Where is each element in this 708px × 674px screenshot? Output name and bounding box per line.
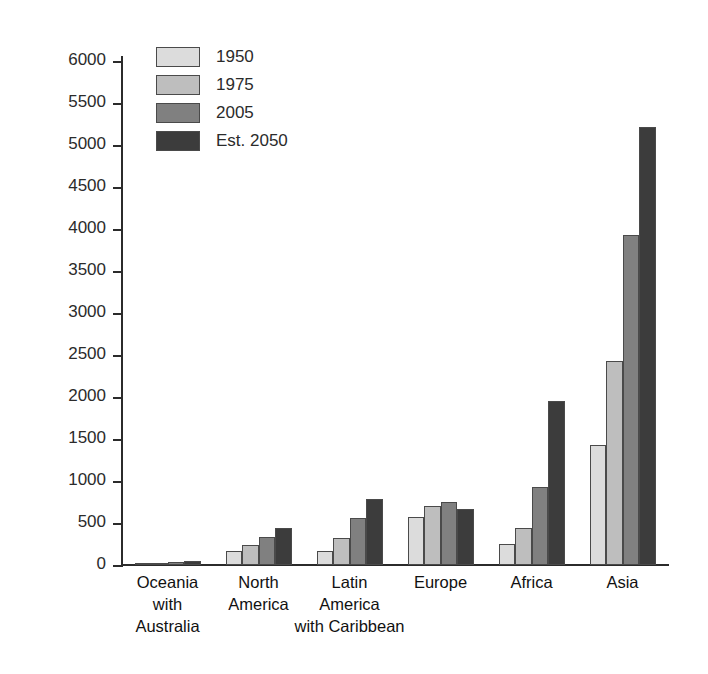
y-axis-tick: 3000 (113, 313, 122, 315)
y-axis-tick: 6000 (113, 61, 122, 63)
bar (151, 563, 168, 565)
bar (317, 551, 334, 565)
bar (242, 545, 259, 565)
legend-label: 1975 (216, 75, 254, 95)
y-axis-tick-label: 3000 (68, 302, 106, 322)
y-axis-tick: 5500 (113, 103, 122, 105)
y-axis-tick-label: 1000 (68, 470, 106, 490)
bar-group (395, 61, 486, 565)
chart-legend: 195019752005Est. 2050 (156, 44, 356, 156)
bar (350, 518, 367, 565)
bar (366, 499, 383, 565)
y-axis-tick: 2500 (113, 355, 122, 357)
legend-swatch (156, 75, 200, 95)
legend-label: Est. 2050 (216, 131, 288, 151)
y-axis-tick-label: 6000 (68, 50, 106, 70)
y-axis-tick: 5000 (113, 145, 122, 147)
y-axis-tick-label: 2000 (68, 386, 106, 406)
bar (548, 401, 565, 565)
x-axis-category-label-line: Asia (557, 571, 688, 593)
y-axis-tick: 3500 (113, 271, 122, 273)
legend-item: 1950 (156, 44, 356, 69)
bar (259, 537, 276, 565)
bar (639, 127, 656, 565)
x-axis-category-label-line: Australia (102, 615, 233, 637)
x-axis-category-label-line: with Caribbean (284, 615, 415, 637)
bar (590, 445, 607, 565)
y-axis-title: Population (millions) (0, 0, 34, 674)
legend-swatch (156, 131, 200, 151)
legend-label: 1950 (216, 47, 254, 67)
bar-group (577, 61, 668, 565)
y-axis-tick: 1000 (113, 481, 122, 483)
bar (275, 528, 292, 565)
y-axis-tick: 2000 (113, 397, 122, 399)
x-axis-category-label-line: America (284, 593, 415, 615)
y-axis-tick-label: 5500 (68, 92, 106, 112)
bar (532, 487, 549, 565)
bar (424, 506, 441, 565)
y-axis-tick-label: 3500 (68, 260, 106, 280)
legend-swatch (156, 103, 200, 123)
x-axis-category-label: Asia (557, 571, 688, 593)
y-axis-tick-label: 500 (78, 512, 106, 532)
y-axis-tick: 4000 (113, 229, 122, 231)
bar (184, 561, 201, 565)
y-axis-tick-label: 2500 (68, 344, 106, 364)
bar (333, 538, 350, 565)
legend-item: 1975 (156, 72, 356, 97)
x-axis-category-labels: OceaniawithAustraliaNorthAmericaLatinAme… (122, 571, 668, 671)
bar (499, 544, 516, 565)
bar (441, 502, 458, 565)
y-axis-tick: 500 (113, 523, 122, 525)
y-axis-tick-label: 5000 (68, 134, 106, 154)
y-axis-tick: 0 (113, 565, 122, 567)
bar (515, 528, 532, 565)
y-axis-tick-label: 4500 (68, 176, 106, 196)
legend-item: 2005 (156, 100, 356, 125)
bar (457, 509, 474, 565)
y-axis-tick: 1500 (113, 439, 122, 441)
bar (623, 235, 640, 565)
bar (226, 551, 243, 565)
legend-swatch (156, 47, 200, 67)
bar (168, 562, 185, 565)
y-axis-tick-label: 4000 (68, 218, 106, 238)
bar (135, 563, 152, 565)
bar (408, 517, 425, 565)
y-axis-tick: 4500 (113, 187, 122, 189)
legend-label: 2005 (216, 103, 254, 123)
bar-group (486, 61, 577, 565)
bar (606, 361, 623, 565)
legend-item: Est. 2050 (156, 128, 356, 153)
y-axis-tick-label: 1500 (68, 428, 106, 448)
population-bar-chart: Population (millions) 600055005000450040… (0, 0, 708, 674)
